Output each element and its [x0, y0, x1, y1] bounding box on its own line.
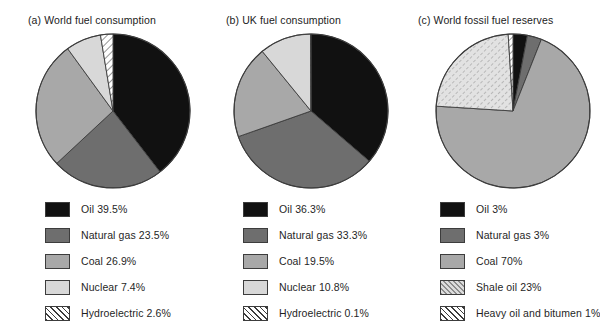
legend-swatch-oil: [440, 202, 465, 217]
legend-label: Natural gas 3%: [476, 229, 549, 241]
legend-item: Nuclear 7.4%: [45, 274, 171, 300]
legend-swatch-oil: [45, 202, 70, 217]
legend-label: Coal 70%: [476, 255, 522, 267]
legend-item: Natural gas 33.3%: [243, 222, 369, 248]
pie-chart-uk-fuel-consumption: [230, 32, 392, 190]
legend-item: Shale oil 23%: [440, 274, 600, 300]
legend-item: Oil 3%: [440, 196, 600, 222]
legend-item: Hydroelectric 0.1%: [243, 300, 369, 326]
legend-item: Oil 39.5%: [45, 196, 171, 222]
panel-title: (c) World fossil fuel reserves: [418, 14, 553, 26]
legend-item: Coal 19.5%: [243, 248, 369, 274]
legend-item: Coal 70%: [440, 248, 600, 274]
legend-label: Oil 36.3%: [279, 203, 325, 215]
legend-swatch-heavy-oil: [440, 306, 465, 321]
legend-swatch-nuclear: [45, 280, 70, 295]
legend-world-fuel-consumption: Oil 39.5% Natural gas 23.5% Coal 26.9% N…: [45, 196, 171, 326]
legend-label: Heavy oil and bitumen 1%: [476, 307, 600, 319]
legend-swatch-oil: [243, 202, 268, 217]
legend-item: Coal 26.9%: [45, 248, 171, 274]
legend-swatch-natural-gas: [45, 228, 70, 243]
legend-swatch-coal: [45, 254, 70, 269]
legend-swatch-hydroelectric: [45, 306, 70, 321]
legend-item: Oil 36.3%: [243, 196, 369, 222]
legend-label: Natural gas 23.5%: [81, 229, 169, 241]
legend-swatch-natural-gas: [440, 228, 465, 243]
legend-label: Oil 3%: [476, 203, 508, 215]
legend-label: Coal 19.5%: [279, 255, 334, 267]
legend-item: Natural gas 3%: [440, 222, 600, 248]
legend-swatch-nuclear: [243, 280, 268, 295]
panel-title: (a) World fuel consumption: [28, 14, 156, 26]
pie-svg: [432, 32, 594, 190]
legend-swatch-natural-gas: [243, 228, 268, 243]
legend-swatch-coal: [243, 254, 268, 269]
chart-panel-world-fuel-consumption: (a) World fuel consumption Oil 39.5% Nat…: [14, 0, 210, 335]
legend-swatch-shale-oil: [440, 280, 465, 295]
legend-uk-fuel-consumption: Oil 36.3% Natural gas 33.3% Coal 19.5% N…: [243, 196, 369, 326]
legend-world-fossil-fuel-reserves: Oil 3% Natural gas 3% Coal 70% Shale oil…: [440, 196, 600, 326]
legend-item: Hydroelectric 2.6%: [45, 300, 171, 326]
legend-label: Shale oil 23%: [476, 281, 542, 293]
panel-title: (b) UK fuel consumption: [226, 14, 341, 26]
chart-panel-uk-fuel-consumption: (b) UK fuel consumption Oil 36.3% Natura…: [212, 0, 408, 335]
legend-label: Nuclear 7.4%: [81, 281, 145, 293]
legend-item: Nuclear 10.8%: [243, 274, 369, 300]
pie-slice-shale_oil: [436, 34, 513, 111]
pie-svg: [230, 32, 392, 190]
legend-item: Natural gas 23.5%: [45, 222, 171, 248]
legend-swatch-coal: [440, 254, 465, 269]
legend-label: Hydroelectric 0.1%: [279, 307, 369, 319]
legend-label: Hydroelectric 2.6%: [81, 307, 171, 319]
chart-panel-world-fossil-fuel-reserves: (c) World fossil fuel reserves Oil 3% Na…: [404, 0, 588, 335]
legend-label: Nuclear 10.8%: [279, 281, 349, 293]
legend-swatch-hydroelectric: [243, 306, 268, 321]
legend-label: Natural gas 33.3%: [279, 229, 367, 241]
legend-label: Oil 39.5%: [81, 203, 127, 215]
legend-item: Heavy oil and bitumen 1%: [440, 300, 600, 326]
pie-svg: [32, 32, 194, 190]
legend-label: Coal 26.9%: [81, 255, 136, 267]
pie-chart-world-fuel-consumption: [32, 32, 194, 190]
pie-chart-world-fossil-fuel-reserves: [432, 32, 594, 190]
